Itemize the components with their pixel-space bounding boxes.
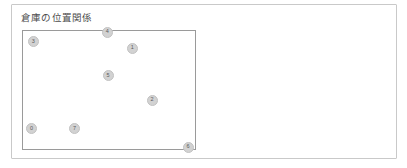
- scatter-point-0: 0: [26, 123, 37, 134]
- scatter-point-2: 2: [147, 95, 158, 106]
- screenshot-root: 倉庫の位置関係 34152076: [0, 0, 407, 168]
- scatter-point-6: 6: [183, 142, 194, 153]
- scatter-point-4: 4: [102, 27, 113, 38]
- scatter-point-5: 5: [103, 70, 114, 81]
- scatter-point-1: 1: [127, 43, 138, 54]
- scatter-plot-surface: 34152076: [23, 31, 195, 149]
- scatter-point-3: 3: [28, 36, 39, 47]
- warehouse-location-panel: 倉庫の位置関係 34152076: [11, 4, 397, 159]
- page-title: 倉庫の位置関係: [21, 11, 92, 24]
- scatter-point-7: 7: [69, 123, 80, 134]
- scatter-plot-frame: 34152076: [22, 30, 196, 150]
